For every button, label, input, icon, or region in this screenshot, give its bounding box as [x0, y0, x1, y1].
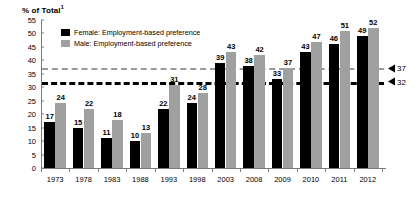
- x-axis-tick-mark: [98, 168, 99, 172]
- y-axis-tick-mark: [41, 20, 44, 21]
- x-axis-tick-label: 2012: [359, 175, 376, 184]
- legend-label-male: Male: Employment-based preference: [74, 39, 192, 48]
- bar-value-label: 31: [170, 75, 178, 84]
- bar-female: 38: [243, 66, 254, 168]
- y-axis-tick-mark: [41, 100, 44, 101]
- x-axis-tick-mark: [212, 168, 213, 172]
- bar-value-label: 39: [216, 53, 224, 62]
- bar-male: 24: [55, 103, 66, 168]
- bar-value-label: 47: [312, 32, 320, 41]
- y-axis-title-text: % of Total: [22, 6, 61, 15]
- y-axis-title: % of Total1: [22, 6, 64, 15]
- bar-value-label: 51: [341, 21, 349, 30]
- bar-value-label: 10: [131, 131, 139, 140]
- x-axis-tick-mark: [240, 168, 241, 172]
- bar-female: 39: [215, 63, 226, 168]
- bar-value-label: 11: [103, 128, 111, 137]
- bar-value-label: 13: [142, 123, 150, 132]
- bar-value-label: 24: [188, 93, 196, 102]
- x-axis-tick-mark: [325, 168, 326, 172]
- bar-female: 46: [329, 44, 340, 168]
- legend: Female: Employment-based preference Male…: [61, 28, 200, 50]
- bar-male: 43: [226, 52, 237, 168]
- y-axis-tick-value: 0: [32, 164, 36, 173]
- y-axis-tick-mark: [41, 33, 44, 34]
- x-axis-tick-mark: [183, 168, 184, 172]
- y-axis-tick-value: 10: [28, 137, 36, 146]
- y-axis-tick-mark: [41, 114, 44, 115]
- x-axis-tick-mark: [41, 168, 42, 172]
- bar-male: 37: [283, 68, 294, 168]
- x-axis-tick-mark: [354, 168, 355, 172]
- x-axis-tick-mark: [382, 168, 383, 172]
- y-axis-tick-mark: [41, 73, 44, 74]
- bar-value-label: 43: [301, 42, 309, 51]
- legend-swatch-female-icon: [61, 29, 70, 36]
- x-axis-tick-mark: [69, 168, 70, 172]
- bar-value-label: 43: [227, 42, 235, 51]
- y-axis-tick-value: 30: [28, 83, 36, 92]
- x-axis-tick-label: 1988: [132, 175, 149, 184]
- bar-male: 18: [112, 120, 123, 168]
- bar-female: 11: [101, 138, 112, 168]
- chart-container: % of Total1 0510152025303540455055 17241…: [0, 0, 420, 197]
- legend-item-female: Female: Employment-based preference: [61, 28, 200, 37]
- bar-male: 13: [141, 133, 152, 168]
- y-axis-title-footnote: 1: [61, 4, 64, 10]
- x-axis-tick-label: 1993: [161, 175, 178, 184]
- y-axis-tick-value: 45: [28, 42, 36, 51]
- reference-value-label: 32: [397, 77, 406, 86]
- bar-value-label: 22: [85, 99, 93, 108]
- bar-female: 24: [187, 103, 198, 168]
- x-axis-tick-label: 2011: [331, 175, 347, 184]
- y-axis-tick-mark: [41, 87, 44, 88]
- y-axis-tick-value: 15: [28, 123, 36, 132]
- y-axis-tick-mark: [41, 46, 44, 47]
- x-axis-tick-label: 2009: [274, 175, 291, 184]
- bar-value-label: 37: [284, 58, 292, 67]
- bar-value-label: 17: [46, 112, 54, 121]
- reference-value-label: 37: [397, 64, 406, 73]
- bar-female: 17: [44, 122, 55, 168]
- bar-value-label: 49: [358, 26, 366, 35]
- x-axis-tick-mark: [126, 168, 127, 172]
- legend-label-female: Female: Employment-based preference: [74, 28, 200, 37]
- x-axis-tick-label: 2003: [217, 175, 234, 184]
- y-axis-tick-value: 5: [32, 150, 36, 159]
- bar-value-label: 15: [74, 118, 82, 127]
- bar-female: 33: [272, 79, 283, 168]
- bar-male: 51: [340, 31, 351, 168]
- y-axis-tick-value: 25: [28, 96, 36, 105]
- x-axis-tick-mark: [297, 168, 298, 172]
- bar-female: 15: [73, 128, 84, 168]
- bar-male: 28: [198, 93, 209, 168]
- bar-male: 42: [254, 55, 265, 168]
- bar-value-label: 46: [330, 34, 338, 43]
- y-axis-tick-value: 40: [28, 56, 36, 65]
- x-axis-tick-mark: [155, 168, 156, 172]
- reference-callout-female-average: 32: [388, 77, 406, 86]
- x-axis-tick-label: 1998: [189, 175, 206, 184]
- bar-value-label: 38: [244, 56, 252, 65]
- bar-value-label: 33: [273, 69, 281, 78]
- bar-value-label: 28: [199, 83, 207, 92]
- y-axis-tick-value: 55: [28, 16, 36, 25]
- y-axis-tick-value: 50: [28, 29, 36, 38]
- bar-value-label: 18: [113, 110, 121, 119]
- x-axis-line: [41, 168, 386, 169]
- x-axis-tick-label: 2008: [246, 175, 263, 184]
- bar-male: 31: [169, 85, 180, 168]
- bar-male: 47: [311, 42, 322, 168]
- bar-male: 52: [368, 28, 379, 168]
- x-axis-tick-label: 1973: [47, 175, 64, 184]
- y-axis-line: [41, 20, 42, 168]
- legend-swatch-male-icon: [61, 40, 70, 47]
- y-axis-tick-mark: [41, 60, 44, 61]
- x-axis-tick-mark: [268, 168, 269, 172]
- y-axis-tick-value: 20: [28, 110, 36, 119]
- bar-female: 49: [357, 36, 368, 168]
- y-axis-tick-value: 35: [28, 69, 36, 78]
- bar-value-label: 24: [57, 93, 65, 102]
- left-arrow-icon: [388, 78, 395, 86]
- reference-callout-male-average: 37: [388, 64, 406, 73]
